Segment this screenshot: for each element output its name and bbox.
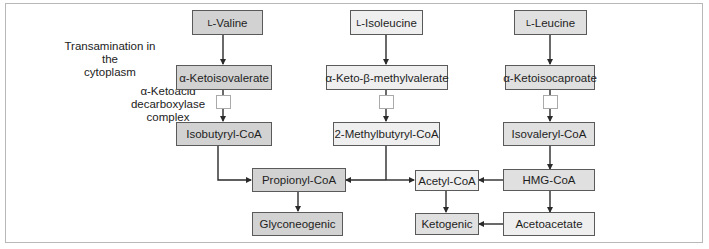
node-text: α-Ketoisovalerate: [179, 72, 269, 84]
node-ketoisocaproate: α-Ketoisocaproate: [505, 65, 595, 90]
node-acetyl-coa: Acetyl-CoA: [415, 170, 479, 191]
transamination-line-1: Transamination in the: [55, 40, 165, 66]
node-text: Acetyl-CoA: [418, 175, 476, 187]
node-methylbutyryl-coa: 2-Methylbutyryl-CoA: [333, 122, 440, 146]
node-keto-methylvalerate: α-Keto-β-methylvalerate: [326, 65, 448, 90]
node-text: α-Keto-β-methylvalerate: [325, 72, 448, 84]
node-l-isoleucine: L-Isoleucine: [350, 10, 423, 35]
decarboxylase-label: α-Ketoacid decarboxylase complex: [128, 85, 208, 124]
node-text: -Leucine: [531, 17, 575, 29]
node-hmg-coa: HMG-CoA: [503, 169, 595, 191]
node-l-valine: L-Valine: [192, 10, 263, 35]
arrow-isobutyryl-to-propionyl: [218, 146, 251, 180]
node-text: Isobutyryl-CoA: [186, 128, 261, 140]
node-l-leucine: L-Leucine: [514, 10, 587, 35]
node-ketoisovalerate: α-Ketoisovalerate: [176, 65, 272, 90]
node-glyconeogenic: Glyconeogenic: [252, 212, 343, 236]
node-text: HMG-CoA: [522, 174, 575, 186]
node-isovaleryl-coa: Isovaleryl-CoA: [503, 122, 595, 146]
node-ketogenic: Ketogenic: [415, 213, 479, 235]
node-acetoacetate: Acetoacetate: [503, 212, 595, 236]
transamination-label: Transamination in the cytoplasm: [55, 40, 165, 79]
node-text: Propionyl-CoA: [262, 174, 336, 186]
node-text: -Valine: [213, 17, 248, 29]
node-propionyl-coa: Propionyl-CoA: [252, 168, 346, 192]
node-text: α-Ketoisocaproate: [503, 72, 597, 84]
node-text: 2-Methylbutyryl-CoA: [334, 128, 438, 140]
node-text: -Isoleucine: [361, 17, 417, 29]
decarboxylase-line-2: decarboxylase: [128, 98, 208, 111]
enzyme-complex-marker-valine: [216, 95, 231, 109]
node-text: Isovaleryl-CoA: [512, 128, 587, 140]
node-text: Acetoacetate: [515, 218, 582, 230]
node-text: Glyconeogenic: [259, 218, 335, 230]
enzyme-complex-marker-leucine: [543, 95, 558, 109]
enzyme-complex-marker-isoleucine: [379, 95, 394, 109]
node-isobutyryl-coa: Isobutyryl-CoA: [176, 122, 272, 146]
node-text: Ketogenic: [421, 218, 472, 230]
transamination-line-2: cytoplasm: [55, 66, 165, 79]
